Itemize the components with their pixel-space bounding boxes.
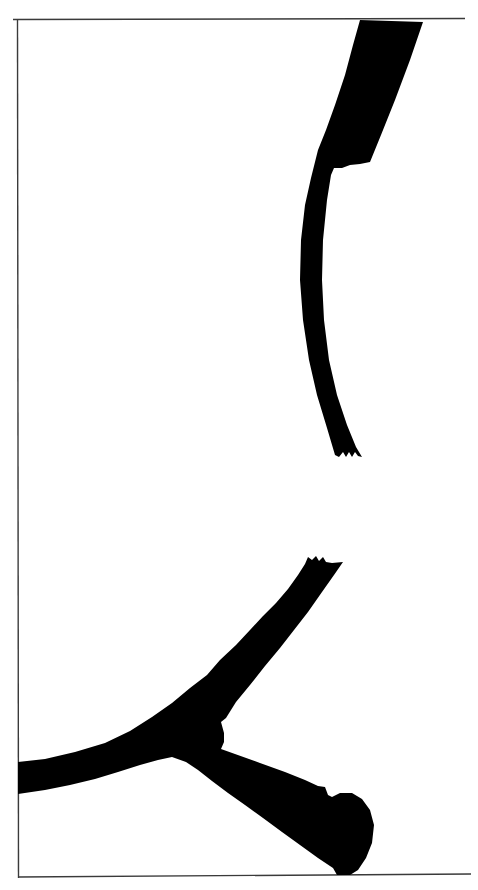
figure-frame <box>13 19 471 879</box>
figure-caption <box>0 880 478 890</box>
frame-bottom-line <box>18 874 471 877</box>
figure-plate <box>0 0 478 890</box>
upper-fragment-silhouette <box>300 20 423 457</box>
lower-fragment-silhouette <box>18 556 374 875</box>
frame-top-line <box>13 19 465 20</box>
frame-left-line <box>18 20 19 878</box>
